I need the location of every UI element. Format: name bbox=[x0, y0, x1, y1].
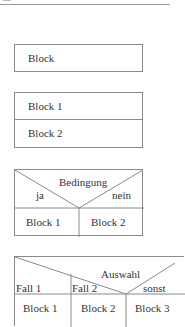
switch-label: Auswahl bbox=[101, 268, 140, 281]
simple-block-label: Block bbox=[28, 52, 54, 65]
switch-block-1: Block 1 bbox=[23, 302, 58, 315]
condition-block: Bedingung ja nein Block 1 Block 2 bbox=[14, 169, 143, 236]
switch-case-2: Fall 2 bbox=[72, 282, 97, 295]
condition-false-label: nein bbox=[112, 189, 131, 202]
sequence-block-1: Block 1 bbox=[28, 100, 63, 113]
sequence-divider bbox=[15, 119, 142, 120]
switch-block-3: Block 3 bbox=[135, 302, 170, 315]
switch-block: Auswahl Fall 1 Fall 2 sonst Block 1 Bloc… bbox=[14, 256, 184, 326]
switch-block-2: Block 2 bbox=[81, 302, 116, 315]
simple-block: Block bbox=[14, 44, 143, 72]
switch-case-else: sonst bbox=[143, 282, 166, 295]
condition-true-label: ja bbox=[36, 189, 44, 202]
top-mark bbox=[3, 0, 11, 1]
sequence-block: Block 1 Block 2 bbox=[14, 92, 143, 148]
sequence-block-2: Block 2 bbox=[28, 127, 63, 140]
condition-label: Bedingung bbox=[59, 176, 107, 189]
condition-block-1: Block 1 bbox=[26, 216, 61, 229]
switch-case-1: Fall 1 bbox=[16, 282, 41, 295]
condition-block-2: Block 2 bbox=[91, 216, 126, 229]
top-rule bbox=[0, 4, 170, 5]
